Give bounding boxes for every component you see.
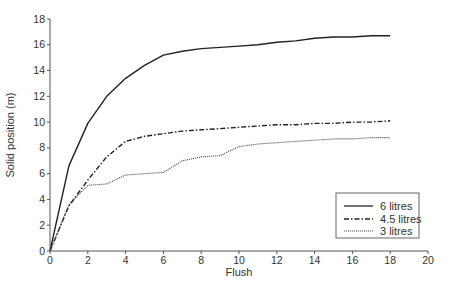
line-chart: 02468101214161820 024681012141618 Flush … [0, 0, 451, 291]
y-tick-label: 14 [33, 64, 45, 76]
y-tick-label: 4 [39, 193, 45, 205]
y-tick-label: 6 [39, 167, 45, 179]
x-axis-title: Flush [226, 266, 253, 278]
legend-label-6-litres: 6 litres [380, 200, 413, 212]
x-tick-label: 6 [160, 254, 166, 266]
y-tick-label: 12 [33, 90, 45, 102]
x-tick-label: 20 [422, 254, 434, 266]
x-tick-label: 0 [47, 254, 53, 266]
x-tick-label: 16 [347, 254, 359, 266]
y-axis-title: Solid position (m) [4, 93, 16, 178]
y-tick-label: 18 [33, 13, 45, 25]
y-tick-label: 2 [39, 219, 45, 231]
x-tick-label: 4 [123, 254, 129, 266]
y-tick-label: 8 [39, 141, 45, 153]
x-tick-label: 14 [309, 254, 321, 266]
x-tick-label: 18 [384, 254, 396, 266]
x-axis: 02468101214161820 [47, 251, 434, 266]
y-axis: 024681012141618 [33, 13, 50, 257]
x-tick-label: 8 [198, 254, 204, 266]
x-tick-label: 10 [233, 254, 245, 266]
x-tick-label: 2 [85, 254, 91, 266]
legend-label-3-litres: 3 litres [380, 225, 413, 237]
y-tick-label: 0 [39, 245, 45, 257]
y-tick-label: 10 [33, 116, 45, 128]
x-tick-label: 12 [271, 254, 283, 266]
legend-label-4-5-litres: 4.5 litres [380, 213, 422, 225]
y-tick-label: 16 [33, 38, 45, 50]
legend: 6 litres 4.5 litres 3 litres [336, 193, 422, 238]
